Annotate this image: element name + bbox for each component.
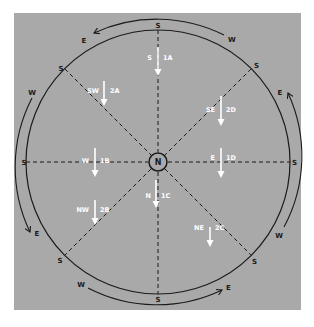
left-arc-start: W: [28, 89, 36, 97]
ring-label-bottom-left: S: [57, 257, 62, 265]
sector-s-code: 1A: [163, 54, 173, 62]
sector-ne-dir: NE: [194, 224, 204, 232]
sector-e-dir: E: [211, 154, 215, 162]
sector-w-code: 1B: [100, 157, 110, 165]
ring-label-top-right: S: [254, 62, 259, 70]
sector-nw-code: 2B: [100, 206, 110, 214]
ring-label-right: S: [292, 159, 297, 167]
ring-label-top: S: [155, 22, 160, 30]
sector-se-dir: SE: [206, 106, 215, 114]
sector-sw-code: 2A: [110, 87, 120, 95]
sector-n-dir: N: [146, 192, 151, 200]
compass-diagram: N S S S S S S S S W E W E W E W E: [0, 0, 314, 327]
sector-w-dir: W: [82, 157, 89, 165]
top-arc-start: W: [228, 36, 236, 44]
ring-label-bottom: S: [155, 296, 160, 304]
sector-ne-code: 2C: [215, 224, 225, 232]
right-arc-start: W: [275, 232, 283, 240]
ring-label-bottom-right: S: [252, 258, 257, 266]
sector-sw-dir: SW: [87, 87, 99, 95]
right-arc-end: E: [278, 89, 283, 97]
ring-label-left: S: [21, 159, 26, 167]
sector-n-code: 1C: [161, 192, 171, 200]
top-arc-end: E: [82, 37, 87, 45]
sector-s-dir: S: [147, 54, 152, 62]
center-label: N: [155, 158, 162, 167]
left-arc-end: E: [35, 230, 40, 238]
ring-label-top-left: S: [58, 65, 63, 73]
sector-e-code: 1D: [226, 154, 237, 162]
bottom-arc-end: E: [226, 284, 231, 292]
sector-nw-dir: NW: [76, 206, 89, 214]
sector-se-code: 2D: [226, 106, 237, 114]
bottom-arc-start: W: [77, 281, 85, 289]
